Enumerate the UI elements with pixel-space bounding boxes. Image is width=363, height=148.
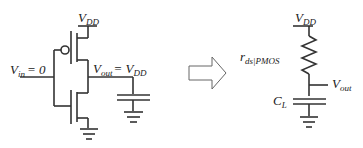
ground-icon: [300, 117, 318, 127]
ground-icon: [80, 129, 98, 139]
capacitor-icon: [117, 95, 150, 100]
ground-icon: [124, 112, 143, 122]
vout-label-right: Vout: [332, 76, 352, 93]
vin-label: Vin= 0: [10, 62, 46, 79]
capacitor-icon: [293, 99, 326, 104]
resistor-icon: [302, 36, 316, 74]
rc-equivalent-circuit: VDD rds|PMOS Vout CL: [240, 10, 352, 127]
cmos-inverter-circuit: VDD Vin= 0 Vout= VDD: [10, 10, 150, 139]
cl-label: CL: [273, 93, 287, 110]
nmos-transistor: [54, 90, 88, 124]
pmos-transistor: [54, 31, 88, 64]
vdd-label-left: VDD: [78, 10, 99, 27]
hollow-right-arrow-icon: [189, 57, 226, 89]
vdd-label-right: VDD: [295, 10, 316, 27]
vout-label-left: Vout= VDD: [93, 61, 147, 78]
pmos-bubble: [61, 46, 69, 54]
inverter-equivalent-diagram: VDD Vin= 0 Vout= VDD VDD rds|PMOS: [0, 0, 363, 148]
rds-pmos-label: rds|PMOS: [240, 49, 280, 66]
